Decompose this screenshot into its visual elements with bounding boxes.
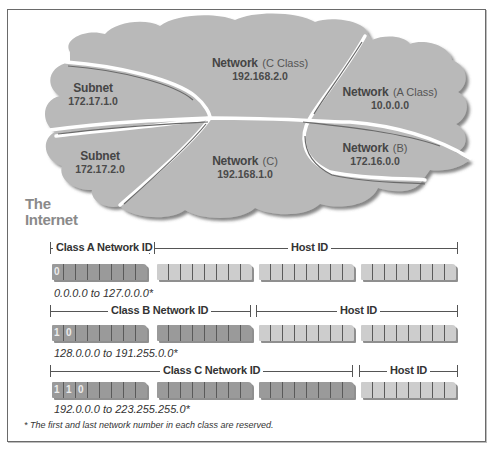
internet-label-line1: The bbox=[25, 196, 78, 212]
region-name: Network bbox=[342, 85, 388, 99]
region-name: Subnet bbox=[80, 149, 119, 163]
region-address: 172.17.1.0 bbox=[48, 95, 138, 108]
region-qualifier: (C) bbox=[263, 155, 278, 167]
class-b-byte-1: 10 bbox=[52, 325, 147, 341]
class-a-byte-1: 0 bbox=[52, 264, 147, 280]
class-c-host-id-bracket: Host ID bbox=[359, 365, 458, 377]
class-c-network-label: Class C Network ID bbox=[160, 364, 263, 376]
region-address: 172.16.0.0 bbox=[325, 155, 425, 168]
region-qualifier: (C Class) bbox=[262, 57, 308, 69]
internet-label: The Internet bbox=[25, 196, 78, 228]
class-a-host-label: Host ID bbox=[288, 241, 331, 253]
class-a-byte-3 bbox=[259, 264, 354, 280]
region-network-a-class: Network (A Class) 10.0.0.0 bbox=[330, 84, 450, 112]
class-b-network-label: Class B Network ID bbox=[108, 304, 211, 316]
class-b-range: 128.0.0.0 to 191.255.0.0* bbox=[54, 347, 178, 359]
class-c-byte-2 bbox=[157, 382, 252, 398]
class-b-network-id-bracket: Class B Network ID bbox=[50, 305, 251, 317]
class-a-byte-2 bbox=[157, 264, 252, 280]
region-address: 10.0.0.0 bbox=[330, 99, 450, 112]
region-qualifier: (B) bbox=[393, 142, 408, 154]
class-c-range: 192.0.0.0 to 223.255.255.0* bbox=[54, 403, 190, 415]
class-b-byte-2 bbox=[157, 325, 252, 341]
region-name: Network bbox=[212, 56, 258, 70]
class-b-host-id-bracket: Host ID bbox=[256, 305, 458, 317]
region-address: 172.17.2.0 bbox=[55, 163, 145, 176]
region-network-b: Network (B) 172.16.0.0 bbox=[325, 140, 425, 168]
region-subnet-1: Subnet 172.17.1.0 bbox=[48, 80, 138, 108]
class-a-range: 0.0.0.0 to 127.0.0.0* bbox=[54, 287, 153, 299]
class-b-host-label: Host ID bbox=[337, 304, 380, 316]
region-qualifier: (A Class) bbox=[393, 86, 438, 98]
class-c-network-id-bracket: Class C Network ID bbox=[50, 365, 353, 377]
class-a-network-id-bracket: Class A Network ID bbox=[50, 242, 150, 254]
class-b-byte-4 bbox=[361, 325, 456, 341]
region-subnet-2: Subnet 172.17.2.0 bbox=[55, 148, 145, 176]
class-c-byte-1: 110 bbox=[52, 382, 147, 398]
class-c-host-label: Host ID bbox=[387, 364, 430, 376]
footnote: * The first and last network number in e… bbox=[24, 420, 274, 430]
region-name: Network bbox=[212, 154, 258, 168]
class-c-byte-4 bbox=[361, 382, 456, 398]
region-network-c-class: Network (C Class) 192.168.2.0 bbox=[190, 55, 330, 83]
region-name: Subnet bbox=[73, 81, 112, 95]
region-name: Network bbox=[342, 141, 388, 155]
internet-label-line2: Internet bbox=[25, 212, 78, 228]
class-a-byte-4 bbox=[361, 264, 456, 280]
class-a-network-label: Class A Network ID bbox=[53, 241, 155, 253]
region-address: 192.168.1.0 bbox=[195, 168, 295, 181]
region-network-c: Network (C) 192.168.1.0 bbox=[195, 153, 295, 181]
class-c-byte-3 bbox=[259, 382, 354, 398]
region-address: 192.168.2.0 bbox=[190, 70, 330, 83]
class-a-host-id-bracket: Host ID bbox=[154, 242, 458, 254]
class-b-byte-3 bbox=[259, 325, 354, 341]
